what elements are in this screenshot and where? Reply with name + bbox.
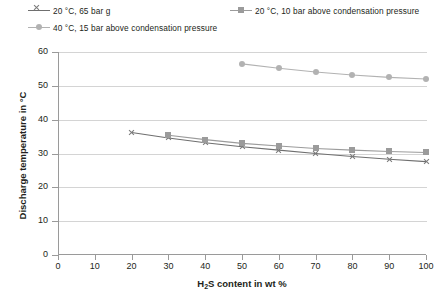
gridline <box>59 86 427 87</box>
y-axis-tick-label: 60 <box>22 46 48 56</box>
x-axis-tick <box>242 255 243 260</box>
square-marker-icon <box>230 5 252 16</box>
data-point[interactable] <box>313 69 319 75</box>
data-point[interactable] <box>386 148 392 154</box>
data-point[interactable] <box>202 137 208 143</box>
gridline <box>59 187 427 188</box>
data-point[interactable] <box>349 153 356 160</box>
legend-marker-0 <box>33 4 40 11</box>
y-axis-tick <box>52 52 58 53</box>
data-point[interactable] <box>128 129 135 136</box>
x-axis-tick-label: 10 <box>80 261 110 271</box>
legend-item-series-0[interactable]: 20 °C, 65 bar g <box>28 5 110 16</box>
x-axis-tick-label: 100 <box>411 261 441 271</box>
gridline <box>59 120 427 121</box>
chart-container: 20 °C, 65 bar g 20 °C, 10 bar above cond… <box>0 0 448 303</box>
data-point[interactable] <box>349 147 355 153</box>
x-axis-tick <box>168 255 169 260</box>
data-point[interactable] <box>239 61 245 67</box>
x-axis-tick <box>352 255 353 260</box>
x-marker-icon <box>28 5 50 16</box>
x-axis-tick-label: 70 <box>301 261 331 271</box>
x-axis-tick <box>95 255 96 260</box>
x-axis-tick-label: 0 <box>43 261 73 271</box>
gridline <box>59 154 427 155</box>
x-axis-tick-label: 40 <box>190 261 220 271</box>
legend-label-0: 20 °C, 65 bar g <box>53 6 110 16</box>
x-axis-tick <box>132 255 133 260</box>
x-axis-tick <box>58 255 59 260</box>
data-point[interactable] <box>276 143 282 149</box>
x-axis-tick <box>279 255 280 260</box>
x-axis-tick-label: 20 <box>117 261 147 271</box>
data-point[interactable] <box>165 132 171 138</box>
legend-label-2: 40 °C, 15 bar above condensation pressur… <box>53 23 217 33</box>
x-axis-tick-label: 80 <box>337 261 367 271</box>
plot-area <box>58 52 426 255</box>
x-axis-tick <box>389 255 390 260</box>
x-axis-tick <box>316 255 317 260</box>
y-axis-tick <box>52 221 58 222</box>
x-axis-tick-label: 50 <box>227 261 257 271</box>
y-axis-tick <box>52 154 58 155</box>
y-axis-title: Discharge temperature in °C <box>17 56 28 256</box>
legend-item-series-1[interactable]: 20 °C, 10 bar above condensation pressur… <box>230 5 419 16</box>
data-point[interactable] <box>423 149 429 155</box>
y-axis-tick <box>52 86 58 87</box>
y-axis-tick <box>52 120 58 121</box>
y-axis-tick <box>52 187 58 188</box>
x-axis-title: H2S content in wt % <box>58 278 426 289</box>
data-point[interactable] <box>386 156 393 163</box>
data-point[interactable] <box>423 158 430 165</box>
legend-item-series-2[interactable]: 40 °C, 15 bar above condensation pressur… <box>28 22 217 33</box>
data-point[interactable] <box>276 65 282 71</box>
x-axis-tick-label: 30 <box>153 261 183 271</box>
x-axis-tick-label: 90 <box>374 261 404 271</box>
data-point[interactable] <box>239 140 245 146</box>
data-point[interactable] <box>423 76 429 82</box>
legend-marker-1 <box>238 7 244 13</box>
legend-label-1: 20 °C, 10 bar above condensation pressur… <box>255 6 419 16</box>
gridline <box>59 221 427 222</box>
chart-legend: 20 °C, 65 bar g 20 °C, 10 bar above cond… <box>0 4 448 40</box>
data-point[interactable] <box>313 145 319 151</box>
x-axis-tick <box>205 255 206 260</box>
x-axis-tick <box>426 255 427 260</box>
x-axis-tick-label: 60 <box>264 261 294 271</box>
gridline <box>59 52 427 53</box>
legend-marker-2 <box>36 24 42 30</box>
circle-marker-icon <box>28 22 50 33</box>
